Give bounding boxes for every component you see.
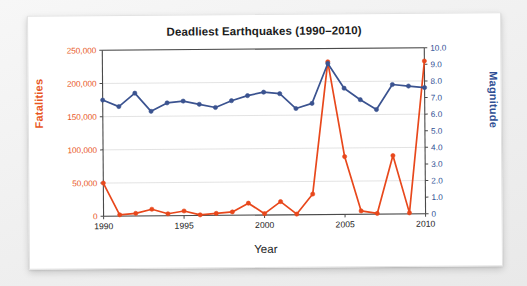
data-point: [311, 192, 315, 196]
y-axis-left-ticks: 050,000100,000150,000200,000250,000: [67, 46, 104, 221]
data-point: [262, 212, 266, 216]
data-point: [150, 207, 154, 211]
data-point: [294, 106, 298, 110]
data-point: [166, 212, 170, 216]
data-point: [117, 104, 121, 108]
data-point: [310, 101, 314, 105]
series-line: [102, 61, 425, 216]
x-tick-label: 1990: [94, 221, 113, 231]
data-point: [101, 181, 105, 185]
y-right-tick-label: 1.0: [431, 193, 443, 202]
x-tick-label: 2005: [336, 219, 355, 229]
y-right-tick-label: 9.0: [430, 60, 442, 69]
y-right-tick-label: 10.0: [430, 44, 446, 53]
x-tick-label: 2000: [255, 220, 274, 230]
data-point: [342, 86, 346, 90]
y-left-tick-label: 250,000: [67, 46, 97, 55]
chart-figure: Deadliest Earthquakes (1990–2010) Fatali…: [28, 13, 502, 269]
data-point: [230, 210, 234, 214]
data-point: [406, 84, 410, 88]
data-point: [165, 101, 169, 105]
data-point: [343, 154, 347, 158]
data-point: [181, 99, 185, 103]
data-point: [375, 211, 379, 215]
data-point: [149, 109, 153, 113]
x-tick-label: 2010: [416, 219, 435, 229]
data-point: [374, 107, 378, 111]
series-line: [102, 63, 424, 112]
y-right-tick-label: 4.0: [431, 143, 443, 152]
data-point: [422, 59, 426, 63]
data-point: [245, 93, 249, 97]
y-right-tick-label: 8.0: [431, 77, 443, 86]
data-point: [407, 211, 411, 215]
data-point: [246, 201, 250, 205]
data-point: [295, 212, 299, 216]
y-right-tick-label: 0: [432, 210, 437, 219]
y-right-tick-label: 6.0: [431, 110, 443, 119]
y-left-tick-label: 150,000: [67, 113, 97, 122]
y-left-tick-label: 200,000: [67, 80, 97, 89]
data-point: [101, 98, 105, 102]
data-point: [359, 209, 363, 213]
data-point: [326, 61, 330, 65]
data-point: [134, 211, 138, 215]
chart-card: Deadliest Earthquakes (1990–2010) Fatali…: [27, 12, 503, 270]
y-right-tick-label: 5.0: [431, 127, 443, 136]
data-point: [197, 102, 201, 106]
data-point: [390, 82, 394, 86]
series-magnitude: [100, 61, 427, 114]
data-point: [213, 105, 217, 109]
y-left-tick-label: 50,000: [72, 179, 98, 188]
y-right-tick-label: 7.0: [431, 93, 443, 102]
data-point: [422, 85, 426, 89]
data-point: [118, 213, 122, 217]
plot-frame: [102, 48, 425, 217]
data-point: [278, 92, 282, 96]
data-point: [391, 153, 395, 157]
data-point: [278, 199, 282, 203]
y-left-tick-label: 100,000: [67, 146, 97, 155]
gridlines: [102, 48, 425, 217]
data-point: [262, 90, 266, 94]
chart-plot-area: 050,000100,000150,000200,000250,000 01.0…: [28, 13, 502, 269]
data-point: [198, 213, 202, 217]
data-point: [214, 211, 218, 215]
y-right-tick-label: 2.0: [431, 176, 443, 185]
data-point: [182, 209, 186, 213]
y-axis-right-ticks: 01.02.03.04.05.06.07.08.09.010.0: [424, 44, 448, 219]
data-point: [133, 91, 137, 95]
y-right-tick-label: 3.0: [431, 160, 443, 169]
data-point: [358, 98, 362, 102]
x-tick-label: 1995: [175, 221, 194, 231]
data-point: [229, 99, 233, 103]
y-left-tick-label: 0: [93, 212, 98, 221]
